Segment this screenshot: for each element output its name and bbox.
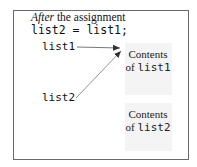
arrow-list2 [76, 51, 121, 98]
arrow-list1 [77, 47, 120, 48]
arrows [0, 0, 197, 167]
